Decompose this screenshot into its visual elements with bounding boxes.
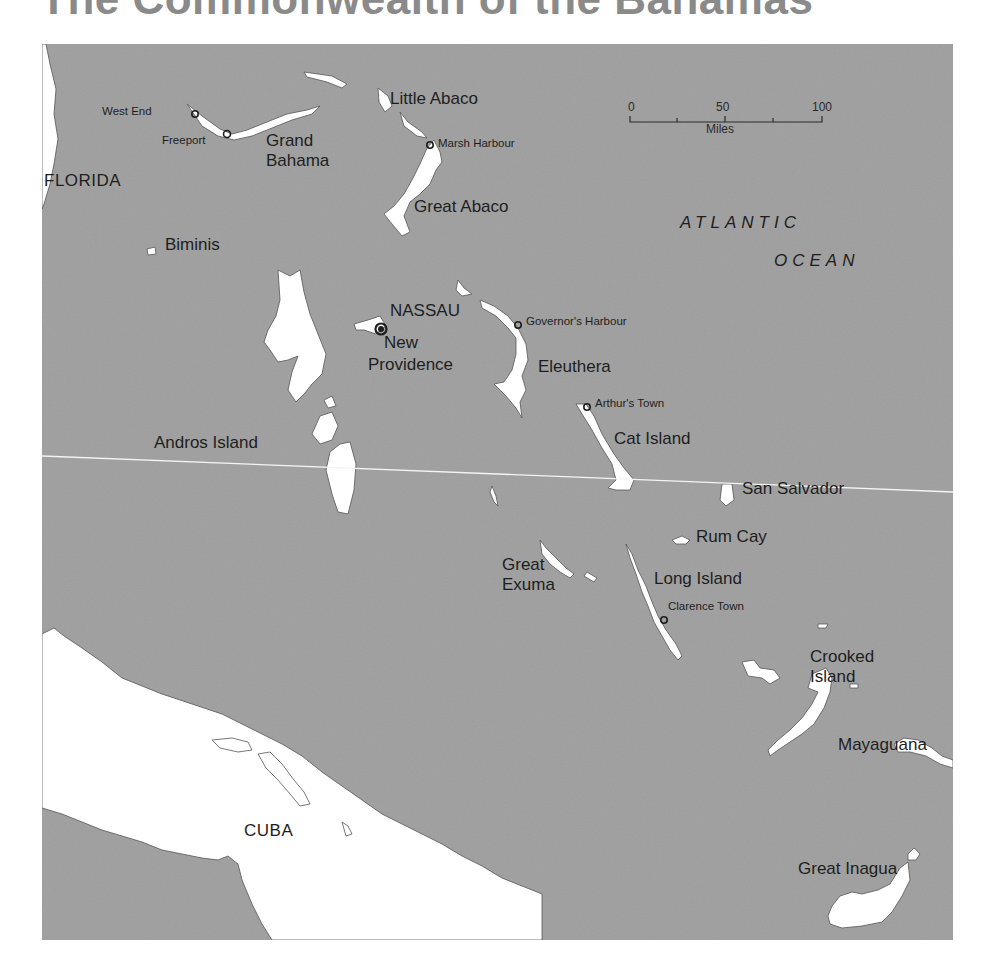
nassau-marker-center <box>379 327 383 331</box>
label-marsh-harbour: Marsh Harbour <box>438 138 515 150</box>
label-bahama: Bahama <box>266 152 329 169</box>
label-cuba: CUBA <box>244 822 293 839</box>
label-governors-harbour: Governor's Harbour <box>526 316 627 328</box>
label-clarence-town: Clarence Town <box>668 601 744 613</box>
label-great-exuma-1: Great <box>502 556 545 573</box>
label-mayaguana: Mayaguana <box>838 736 927 753</box>
map-frame: 0 50 100 Miles FLORIDA CUBA ATLANTIC OCE… <box>42 44 953 940</box>
label-andros-island: Andros Island <box>154 434 258 451</box>
label-west-end: West End <box>102 106 152 118</box>
label-freeport: Freeport <box>162 135 205 147</box>
label-atlantic: ATLANTIC <box>680 214 801 231</box>
label-san-salvador: San Salvador <box>742 480 844 497</box>
label-nassau: NASSAU <box>390 302 460 319</box>
map-title: The Commonwealth of the Bahamas <box>40 0 813 24</box>
label-florida: FLORIDA <box>44 172 121 189</box>
label-crooked-island: Island <box>810 668 855 685</box>
label-crooked: Crooked <box>810 648 874 665</box>
scale-bar: 0 50 100 Miles <box>628 100 828 140</box>
label-arthurs-town: Arthur's Town <box>595 398 664 410</box>
label-great-exuma-2: Exuma <box>502 576 555 593</box>
label-ocean: OCEAN <box>774 252 859 269</box>
label-great-inagua: Great Inagua <box>798 860 897 877</box>
scale-unit: Miles <box>706 122 734 136</box>
label-great-abaco: Great Abaco <box>414 198 509 215</box>
northern-cay <box>818 624 828 628</box>
label-biminis: Biminis <box>165 236 220 253</box>
label-cat-island: Cat Island <box>614 430 691 447</box>
label-providence: Providence <box>368 356 453 373</box>
label-little-abaco: Little Abaco <box>390 90 478 107</box>
label-eleuthera: Eleuthera <box>538 358 611 375</box>
label-grand: Grand <box>266 132 313 149</box>
label-rum-cay: Rum Cay <box>696 528 767 545</box>
label-long-island: Long Island <box>654 570 742 587</box>
label-new: New <box>384 334 418 351</box>
